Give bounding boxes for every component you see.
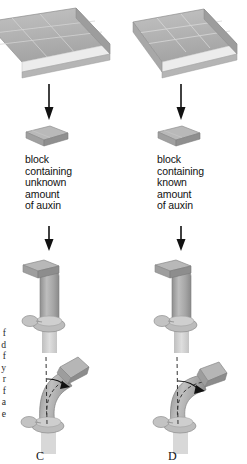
agar-block-c: block containing unknown amount of auxin: [0, 122, 115, 225]
coleoptile-upright-d: [124, 253, 247, 353]
down-arrow-1-c: [0, 82, 115, 122]
panel-c: block containing unknown amount of auxin: [0, 0, 115, 454]
coleoptile-curved-c: C: [0, 353, 115, 454]
agar-slab-d: [124, 0, 247, 82]
down-arrow-icon: [0, 82, 115, 122]
agar-slab-graphic: [0, 0, 115, 82]
down-arrow-2-d: [124, 225, 247, 253]
panel-letter-c: C: [36, 449, 44, 464]
agar-block-caption-d: block containing known amount of auxin: [157, 154, 243, 212]
coleoptile-upright-graphic: [0, 253, 115, 353]
agar-block-graphic: [124, 122, 247, 152]
down-arrow-icon: [0, 225, 115, 253]
down-arrow-icon: [124, 225, 247, 253]
coleoptile-curved-d: D: [124, 353, 247, 454]
agar-slab-c: [0, 0, 115, 82]
down-arrow-1-d: [124, 82, 247, 122]
coleoptile-curved-graphic: [0, 353, 115, 454]
panel-letter-d: D: [168, 449, 177, 464]
agar-slab-graphic: [124, 0, 247, 82]
panel-d: block containing known amount of auxin: [124, 0, 247, 454]
coleoptile-curved-graphic: [124, 353, 247, 454]
coleoptile-upright-graphic: [124, 253, 247, 353]
agar-block-caption-c: block containing unknown amount of auxin: [25, 154, 111, 212]
down-arrow-2-c: [0, 225, 115, 253]
coleoptile-upright-c: [0, 253, 115, 353]
down-arrow-icon: [124, 82, 247, 122]
agar-block-graphic: [0, 122, 115, 152]
agar-block-d: block containing known amount of auxin: [124, 122, 247, 225]
